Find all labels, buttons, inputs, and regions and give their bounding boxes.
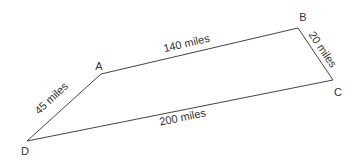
vertex-label-c: C bbox=[334, 87, 342, 98]
vertex-label-b: B bbox=[299, 12, 306, 23]
route-diagram: A B C D 140 miles 20 miles 200 miles 45 … bbox=[0, 0, 360, 163]
vertex-label-d: D bbox=[21, 146, 29, 157]
vertex-label-a: A bbox=[95, 61, 102, 72]
quadrilateral-shape bbox=[0, 0, 360, 163]
